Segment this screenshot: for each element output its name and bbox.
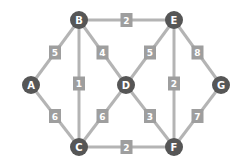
svg-text:8: 8 bbox=[194, 48, 200, 58]
node-F: F bbox=[165, 138, 183, 156]
node-B: B bbox=[70, 11, 88, 29]
svg-text:6: 6 bbox=[99, 112, 105, 122]
edge-weight-label: 3 bbox=[144, 109, 156, 123]
edge-weight-label: 2 bbox=[168, 77, 180, 91]
svg-text:5: 5 bbox=[52, 48, 58, 58]
edge-weight-label: 7 bbox=[192, 109, 204, 123]
node-D: D bbox=[117, 76, 135, 94]
svg-text:D: D bbox=[122, 80, 130, 91]
svg-text:C: C bbox=[75, 142, 82, 153]
svg-text:2: 2 bbox=[123, 16, 129, 26]
edge-weight-label: 2 bbox=[121, 140, 133, 154]
svg-text:3: 3 bbox=[147, 112, 153, 122]
edge-weight-label: 5 bbox=[144, 46, 156, 60]
edge-weight-label: 6 bbox=[49, 109, 61, 123]
node-E: E bbox=[165, 11, 183, 29]
svg-text:A: A bbox=[27, 80, 35, 91]
edge-weight-label: 1 bbox=[73, 77, 85, 91]
nodes-layer: ABEDGCF bbox=[22, 11, 230, 156]
svg-text:4: 4 bbox=[99, 48, 105, 58]
edge-weight-label: 4 bbox=[97, 46, 109, 60]
edge-weight-label: 6 bbox=[97, 109, 109, 123]
node-G: G bbox=[212, 76, 230, 94]
edge-weight-label: 2 bbox=[121, 13, 133, 27]
weighted-graph: 562146253287 ABEDGCF bbox=[0, 0, 241, 167]
edge-weight-label: 8 bbox=[192, 46, 204, 60]
svg-text:G: G bbox=[217, 80, 225, 91]
svg-text:F: F bbox=[171, 142, 178, 153]
svg-text:5: 5 bbox=[147, 48, 153, 58]
svg-text:7: 7 bbox=[194, 112, 200, 122]
svg-text:B: B bbox=[75, 15, 83, 26]
svg-text:E: E bbox=[171, 15, 178, 26]
svg-text:2: 2 bbox=[171, 79, 177, 89]
node-C: C bbox=[70, 138, 88, 156]
svg-text:6: 6 bbox=[52, 112, 58, 122]
svg-text:1: 1 bbox=[76, 79, 82, 89]
edge-weight-label: 5 bbox=[49, 46, 61, 60]
node-A: A bbox=[22, 76, 40, 94]
svg-text:2: 2 bbox=[123, 143, 129, 153]
